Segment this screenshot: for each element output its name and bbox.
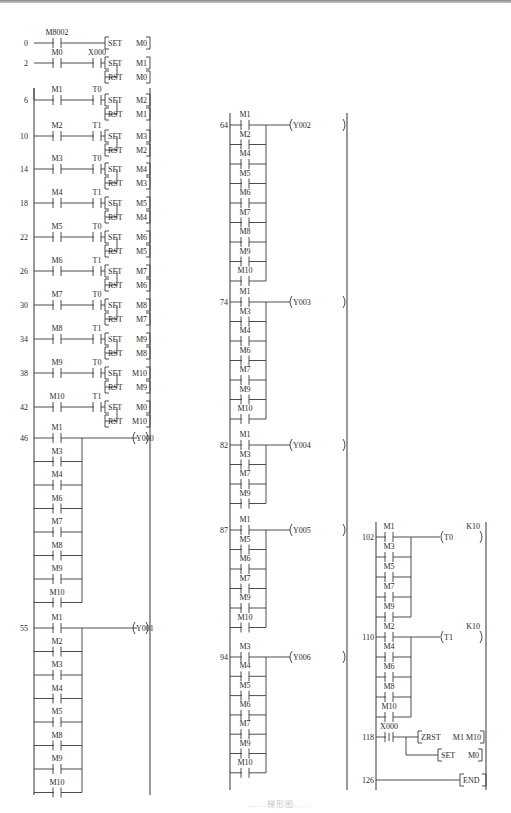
rung-42: 42M10T1SETM0RSTM10: [20, 392, 150, 427]
step-number: 118: [362, 733, 374, 742]
instruction-op: END: [463, 776, 480, 785]
coil-address: T1: [444, 633, 453, 642]
instruction-rst: RSTM7: [105, 313, 150, 325]
contact-m1: M1: [51, 85, 62, 105]
contact-t0: T0: [93, 85, 102, 105]
rung-94: 94M3M4M5M6M7M9M10Y006: [220, 642, 345, 778]
coil-address: Y005: [293, 526, 311, 535]
contact-m9: M9: [239, 489, 250, 509]
instruction-arg: M0: [136, 73, 147, 82]
contact-label: M8: [51, 731, 62, 740]
contact-m5: M5: [51, 707, 62, 727]
contact-label: M7: [239, 469, 250, 478]
step-number: 87: [220, 526, 228, 535]
instruction-op: RST: [108, 146, 123, 155]
contact-label: M7: [239, 719, 250, 728]
instruction-arg: M7: [136, 267, 147, 276]
instruction-arg: M10: [132, 417, 147, 426]
contact-label: M5: [239, 681, 250, 690]
contact-m10: M10: [381, 702, 396, 722]
contact-m10: M10: [49, 588, 64, 608]
contact-m5: M5: [239, 169, 250, 189]
rung-64: 64M1M2M4M5M6M7M8M9M10Y002: [220, 110, 345, 286]
contact-m4: M4: [239, 149, 250, 169]
rung-38: 38M9T0SETM10RSTM9: [20, 358, 150, 393]
rung-74: 74M1M3M4M6M7M9M10Y003: [220, 287, 345, 424]
instruction-arg: M0: [468, 751, 479, 760]
instruction-op: RST: [108, 110, 123, 119]
contact-m1: M1: [51, 423, 62, 443]
contact-m7: M7: [239, 469, 250, 489]
instruction-arg: M6: [136, 233, 147, 242]
coil-address: Y002: [293, 121, 311, 130]
contact-label: M10: [381, 702, 396, 711]
contact-m8: M8: [239, 227, 250, 247]
ladder-column-2: 64M1M2M4M5M6M7M8M9M10Y00274M1M3M4M6M7M9M…: [220, 110, 347, 790]
contact-m2: M2: [51, 121, 62, 141]
contact-m1: M1: [239, 110, 250, 130]
contact-m1: M1: [383, 522, 394, 542]
instruction-rst: RSTM0: [105, 71, 150, 83]
instruction-rst: RSTM6: [105, 279, 150, 291]
coil-address: Y003: [293, 298, 311, 307]
instruction-op: SET: [108, 403, 122, 412]
coil-address: Y000: [136, 434, 154, 443]
instruction-arg: M1 M10: [453, 733, 481, 742]
instruction-set: SETM10: [105, 367, 150, 379]
contact-label: M9: [239, 739, 250, 748]
contact-m3: M3: [51, 660, 62, 680]
contact-label: M6: [51, 494, 62, 503]
contact-m8: M8: [51, 541, 62, 561]
step-number: 126: [362, 776, 374, 785]
contact-label: M10: [237, 404, 252, 413]
contact-m10: M10: [237, 404, 252, 424]
contact-label: T1: [93, 188, 102, 197]
coil-t0: T0K10: [441, 522, 482, 543]
contact-label: M9: [51, 564, 62, 573]
contact-m2: M2: [239, 130, 250, 150]
contact-label: M4: [239, 661, 250, 670]
contact-m5: M5: [239, 681, 250, 701]
step-number: 38: [20, 369, 28, 378]
contact-m10: M10: [237, 758, 252, 778]
step-number: 18: [20, 199, 28, 208]
rung-118: 118X000ZRSTM1 M10SETM0: [362, 722, 484, 761]
contact-m10: M10: [237, 613, 252, 633]
rung-18: 18M4T1SETM5RSTM4: [20, 188, 150, 223]
contact-label: M1: [239, 515, 250, 524]
contact-label: T1: [93, 324, 102, 333]
step-number: 94: [220, 653, 228, 662]
contact-label: M9: [239, 247, 250, 256]
contact-t1: T1: [93, 392, 102, 412]
contact-label: M7: [383, 582, 394, 591]
contact-m3: M3: [383, 542, 394, 562]
contact-label: M10: [49, 392, 64, 401]
contact-label: M2: [51, 637, 62, 646]
step-number: 14: [20, 165, 28, 174]
contact-m2: M2: [51, 637, 62, 657]
contact-label: M1: [51, 85, 62, 94]
rung-14: 14M3T0SETM4RSTM3: [20, 154, 150, 189]
instruction-op: RST: [108, 213, 123, 222]
contact-m9: M9: [383, 602, 394, 622]
contact-m7: M7: [239, 365, 250, 385]
contact-m3: M3: [239, 450, 250, 470]
contact-m9: M9: [239, 593, 250, 613]
contact-label: T0: [93, 358, 102, 367]
contact-label: M1: [239, 287, 250, 296]
contact-m5: M5: [51, 222, 62, 242]
instruction-set: SETM8: [105, 299, 150, 311]
instruction-end: END: [460, 774, 486, 786]
instruction-op: RST: [108, 349, 123, 358]
step-number: 2: [24, 59, 28, 68]
step-number: 102: [362, 533, 374, 542]
contact-label: X000: [88, 48, 106, 57]
instruction-arg: M7: [136, 315, 147, 324]
contact-label: M5: [239, 169, 250, 178]
contact-label: M5: [51, 707, 62, 716]
coil-address: Y004: [293, 441, 311, 450]
instruction-op: RST: [108, 383, 123, 392]
instruction-arg: M8: [136, 301, 147, 310]
instruction-rst: RSTM10: [105, 415, 150, 427]
step-number: 110: [362, 633, 374, 642]
